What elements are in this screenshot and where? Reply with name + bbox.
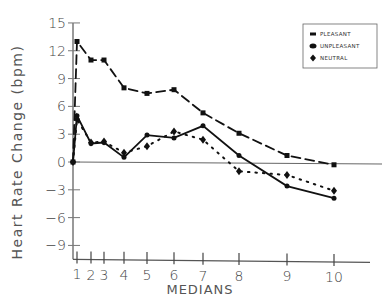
circle-marker bbox=[332, 196, 337, 201]
x-tick-label: 6 bbox=[170, 267, 179, 283]
series-neutral-line bbox=[73, 119, 334, 190]
x-tick-label: 4 bbox=[120, 267, 129, 283]
x-tick-label: 1 bbox=[73, 266, 82, 282]
square-marker bbox=[102, 58, 107, 63]
y-axis-label: Heart Rate Change (bpm) bbox=[9, 45, 25, 260]
y-tick-label: 15 bbox=[48, 15, 66, 31]
y-tick-label: 6 bbox=[57, 98, 66, 114]
square-marker bbox=[237, 131, 242, 136]
square-marker bbox=[332, 162, 337, 167]
legend-circle-icon bbox=[310, 44, 317, 49]
y-tick-label: −6 bbox=[45, 210, 66, 226]
square-marker bbox=[75, 39, 80, 44]
y-tick-label: 12 bbox=[48, 43, 66, 59]
y-tick-label: −9 bbox=[45, 237, 66, 253]
diamond-marker bbox=[236, 167, 242, 175]
x-axis bbox=[73, 259, 370, 262]
x-tick-label: 9 bbox=[283, 268, 292, 284]
x-tick-label: 2 bbox=[87, 267, 96, 283]
y-tick-label: 0 bbox=[57, 154, 66, 170]
circle-marker bbox=[237, 153, 242, 158]
diamond-marker bbox=[144, 142, 150, 150]
circle-marker bbox=[201, 123, 206, 128]
square-marker bbox=[89, 58, 94, 63]
diamond-marker bbox=[284, 171, 290, 179]
line-chart: 15129630−3−6−912345678910 PLEASANTUNPLEA… bbox=[0, 0, 382, 305]
square-marker bbox=[285, 153, 290, 158]
y-tick-label: 3 bbox=[57, 126, 66, 142]
legend-label-unpleasant: UNPLEASANT bbox=[320, 43, 360, 49]
square-marker bbox=[145, 91, 150, 96]
x-axis-label: MEDIANS bbox=[166, 282, 233, 297]
circle-marker bbox=[172, 135, 177, 140]
diamond-marker bbox=[200, 136, 206, 144]
circle-marker bbox=[145, 133, 150, 138]
square-marker bbox=[201, 110, 206, 115]
x-tick-label: 10 bbox=[325, 269, 343, 285]
x-tick-label: 5 bbox=[143, 267, 152, 283]
diamond-marker bbox=[331, 187, 337, 195]
legend: PLEASANTUNPLEASANTNEUTRAL bbox=[303, 24, 377, 68]
square-marker bbox=[172, 87, 177, 92]
legend-label-pleasant: PLEASANT bbox=[320, 31, 351, 37]
x-tick-label: 3 bbox=[100, 267, 109, 283]
x-tick-label: 8 bbox=[235, 268, 244, 284]
y-tick-label: 9 bbox=[57, 71, 66, 87]
diamond-marker bbox=[70, 158, 76, 166]
series-group bbox=[70, 39, 337, 201]
y-tick-label: −3 bbox=[45, 182, 66, 198]
legend-label-neutral: NEUTRAL bbox=[320, 55, 348, 61]
circle-marker bbox=[285, 184, 290, 189]
diamond-marker bbox=[171, 127, 177, 135]
legend-square-icon bbox=[310, 33, 316, 36]
square-marker bbox=[122, 85, 127, 90]
